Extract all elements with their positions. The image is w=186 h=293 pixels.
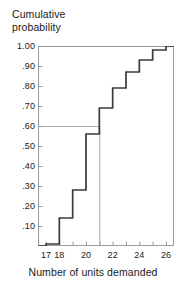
axis-frame xyxy=(39,47,174,246)
y-tick-label: .50 xyxy=(5,142,35,151)
y-tick-label: .60 xyxy=(5,122,35,131)
chart-canvas xyxy=(38,46,174,246)
x-tick-label: 18 xyxy=(47,251,71,260)
y-tick-label: .30 xyxy=(5,182,35,191)
y-tick-label: .20 xyxy=(5,202,35,211)
plot-area xyxy=(38,46,174,246)
step-curve xyxy=(38,46,174,246)
x-tick-label: 20 xyxy=(74,251,98,260)
x-tick-label: 22 xyxy=(101,251,125,260)
y-tick-label: .90 xyxy=(5,62,35,71)
reference-lines xyxy=(38,126,100,246)
y-tick-label: .10 xyxy=(5,222,35,231)
x-tick-label: 26 xyxy=(154,251,178,260)
y-axis-ticks xyxy=(39,47,43,227)
cumulative-probability-chart: Cumulative probability .10.20.30.40.50.6… xyxy=(0,0,186,293)
y-axis-tick-labels: .10.20.30.40.50.60.70.80.901.00 xyxy=(4,0,35,293)
y-tick-label: .80 xyxy=(5,82,35,91)
x-tick-label: 24 xyxy=(127,251,151,260)
x-axis-ticks xyxy=(47,242,167,246)
y-tick-label: .70 xyxy=(5,102,35,111)
y-tick-label: .40 xyxy=(5,162,35,171)
x-axis-tick-labels: 171820222426 xyxy=(0,251,186,263)
y-tick-label: 1.00 xyxy=(5,42,35,51)
x-axis-title: Number of units demanded xyxy=(0,266,186,278)
